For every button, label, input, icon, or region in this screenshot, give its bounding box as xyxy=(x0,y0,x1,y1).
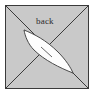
figure-container: back xyxy=(0,0,96,99)
label-back: back xyxy=(36,17,54,26)
geometric-diagram-svg xyxy=(0,0,96,99)
